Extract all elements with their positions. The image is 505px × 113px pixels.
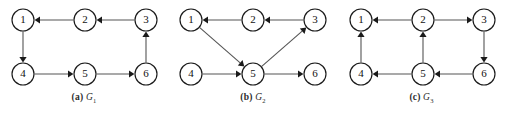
graph-node-3: 3 [135,9,157,31]
graph-canvas: 123456 [338,0,505,92]
graph-node-2: 2 [412,9,434,31]
node-label-2: 2 [250,13,256,25]
graph-node-6: 6 [304,63,326,85]
arrowhead-2-to-1 [35,16,40,23]
node-group: 123456 [12,9,157,85]
graph-node-4: 4 [12,63,34,85]
caption-graph-subscript: 1 [93,97,96,104]
graph-canvas: 123456 [168,0,338,92]
panel-caption: (c) G3 [338,92,505,104]
arrowhead-3-to-6 [480,57,487,62]
caption-tag: (b) [240,92,252,102]
panel-caption: (b) G2 [168,92,338,104]
arrowhead-4-to-5 [68,70,73,77]
node-label-5: 5 [82,67,88,79]
node-label-3: 3 [143,13,149,25]
node-label-6: 6 [312,67,318,79]
graph-node-2: 2 [242,9,264,31]
panel-caption: (a) G1 [0,92,168,104]
figure-directed-graphs: 123456(a) G1123456(b) G2123456(c) G3 [0,0,505,113]
graph-node-4: 4 [350,63,372,85]
node-label-1: 1 [358,13,364,25]
arrowhead-6-to-5 [435,70,440,77]
arrowhead-3-to-2 [97,16,102,23]
edge-1-to-5 [200,28,240,63]
node-label-4: 4 [188,67,194,79]
node-label-5: 5 [420,67,426,79]
graph-panel-2: 123456(b) G2 [168,0,338,113]
graph-canvas: 123456 [0,0,168,92]
arrowhead-5-to-6 [298,70,303,77]
arrowhead-4-to-1 [357,32,364,37]
arrowhead-1-to-4 [19,57,26,62]
caption-graph-subscript: 3 [430,97,433,104]
graph-node-1: 1 [180,9,202,31]
graph-node-6: 6 [135,63,157,85]
node-label-2: 2 [82,13,88,25]
node-label-3: 3 [481,13,487,25]
graph-node-3: 3 [473,9,495,31]
graph-node-3: 3 [304,9,326,31]
node-label-2: 2 [420,13,426,25]
node-label-1: 1 [20,13,26,25]
arrowhead-5-to-6 [129,70,134,77]
node-label-3: 3 [312,13,318,25]
graph-node-6: 6 [473,63,495,85]
node-label-6: 6 [143,67,149,79]
arrowhead-6-to-3 [142,32,149,37]
arrowhead-2-to-3 [467,16,472,23]
arrowhead-3-to-2 [265,16,270,23]
arrowhead-2-to-1 [203,16,208,23]
node-label-5: 5 [250,67,256,79]
graph-node-5: 5 [74,63,96,85]
graph-node-1: 1 [350,9,372,31]
node-label-4: 4 [20,67,26,79]
arrowhead-5-to-2 [419,32,426,37]
node-group: 123456 [180,9,326,85]
caption-graph-name: G [86,92,93,102]
graph-panel-3: 123456(c) G3 [338,0,505,113]
graph-node-1: 1 [12,9,34,31]
graph-node-4: 4 [180,63,202,85]
caption-graph-subscript: 2 [262,97,265,104]
caption-tag: (a) [72,92,84,102]
graph-node-5: 5 [242,63,264,85]
arrowhead-4-to-5 [236,70,241,77]
graph-node-2: 2 [74,9,96,31]
graph-panel-1: 123456(a) G1 [0,0,168,113]
arrowhead-5-to-4 [373,70,378,77]
node-label-4: 4 [358,67,364,79]
node-label-6: 6 [481,67,487,79]
node-label-1: 1 [188,13,194,25]
graph-node-5: 5 [412,63,434,85]
caption-tag: (c) [409,92,420,102]
edge-5-to-3 [262,31,302,66]
arrowhead-2-to-1 [373,16,378,23]
